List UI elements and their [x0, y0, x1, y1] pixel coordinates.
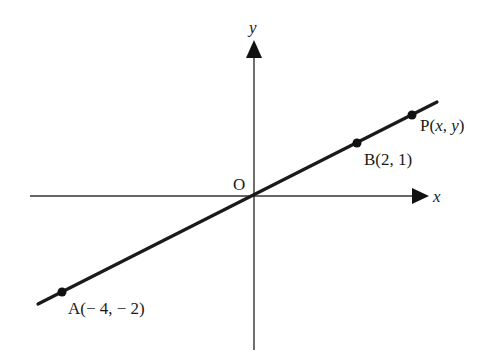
y-axis-arrow-icon: [246, 40, 262, 58]
point-p: [408, 111, 417, 120]
point-a: [58, 288, 67, 297]
point-b-label: B(2, 1): [364, 150, 412, 169]
y-axis-label: y: [247, 18, 257, 37]
x-axis-label: x: [432, 187, 441, 206]
point-p-label-suffix: ): [459, 116, 465, 135]
coordinate-diagram: y x O A(− 4, − 2) B(2, 1) P(x, y): [0, 0, 495, 362]
point-p-label-prefix: P(: [420, 116, 435, 135]
point-a-label: A(− 4, − 2): [68, 299, 145, 318]
origin-label: O: [233, 175, 245, 194]
point-p-label: P(x, y): [420, 116, 464, 135]
line-through-origin: [38, 102, 437, 304]
point-p-label-y: y: [449, 116, 459, 135]
x-axis-arrow-icon: [412, 188, 429, 204]
point-b: [353, 139, 362, 148]
point-p-label-sep: ,: [443, 116, 452, 135]
